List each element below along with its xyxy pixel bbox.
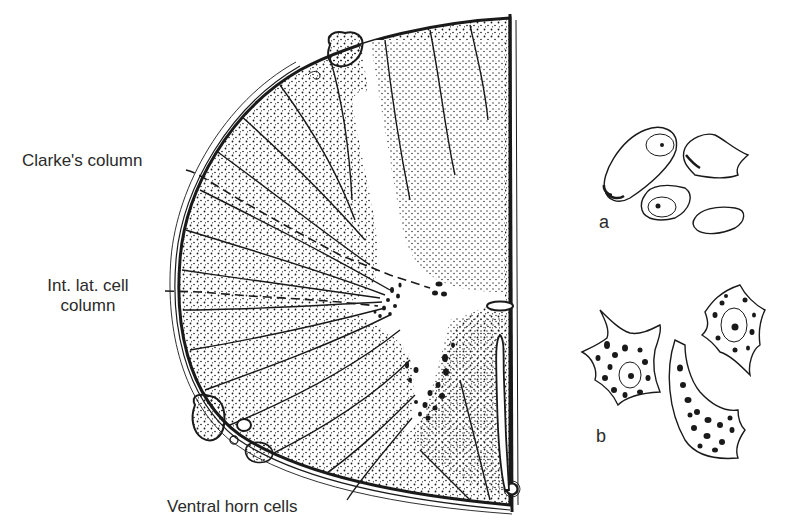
- spinal-cord-diagram: [0, 0, 790, 527]
- cell-b1: [582, 310, 661, 405]
- panel-a-cells: [604, 127, 748, 233]
- panel-label-a: a: [599, 212, 609, 233]
- label-clarkes-column: Clarke's column: [22, 151, 142, 171]
- label-int-lat-line2: column: [18, 296, 158, 316]
- label-int-lat-cell-column: Int. lat. cell column: [18, 276, 158, 316]
- cell-a4: [693, 207, 744, 234]
- central-canal: [487, 302, 513, 311]
- panel-label-b: b: [596, 426, 606, 447]
- label-ventral-horn-cells: Ventral horn cells: [167, 497, 297, 517]
- panel-b-cells: [582, 285, 765, 458]
- cell-a2: [683, 134, 748, 178]
- label-int-lat-line1: Int. lat. cell: [18, 276, 158, 296]
